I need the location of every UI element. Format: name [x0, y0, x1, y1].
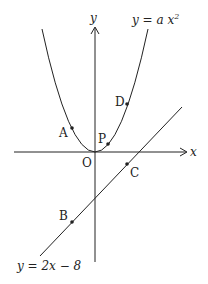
- point-b-marker: [70, 220, 74, 224]
- coordinate-diagram: y x O y = a x2 y = 2x − 8 A D P C B: [0, 0, 208, 284]
- y-axis-label: y: [89, 11, 97, 25]
- point-p-marker: [106, 142, 110, 146]
- point-d-marker: [125, 102, 129, 106]
- point-b-label: B: [59, 209, 68, 223]
- point-c-label: C: [130, 166, 139, 180]
- point-d-label: D: [115, 95, 125, 109]
- parabola-label: y = a x2: [131, 12, 179, 27]
- point-p-label: P: [98, 132, 106, 146]
- point-c-marker: [125, 162, 129, 166]
- x-axis-label: x: [190, 145, 197, 159]
- point-a-marker: [70, 126, 74, 130]
- origin-label: O: [82, 156, 92, 170]
- point-a-label: A: [58, 126, 68, 140]
- line-label: y = 2x − 8: [16, 259, 82, 273]
- parabola-label-exponent: 2: [173, 12, 179, 21]
- x-axis: [14, 148, 187, 156]
- parabola-label-text: y = a x: [131, 13, 174, 27]
